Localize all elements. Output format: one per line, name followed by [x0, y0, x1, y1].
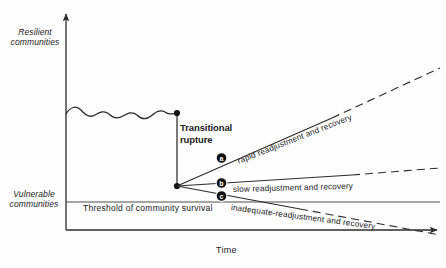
pre-rupture-endpoint-dot: [174, 110, 180, 116]
trajectory-a-dashed: [332, 68, 440, 118]
y-axis-top-label: Resilient communities: [6, 28, 64, 48]
x-axis-label: Time: [216, 245, 237, 255]
resilience-trajectory-diagram: a b c Resilient communities Vulnerable c…: [0, 0, 446, 268]
marker-a-letter: a: [216, 153, 227, 164]
y-axis-top-label-line2: communities: [6, 38, 64, 48]
marker-b-letter: b: [216, 178, 227, 189]
transitional-rupture-line2: rupture: [180, 134, 242, 146]
transitional-rupture-label: Transitional rupture: [180, 122, 242, 146]
y-axis-bottom-label: Vulnerable communities: [4, 190, 64, 210]
pre-rupture-wavy-line: [66, 107, 177, 118]
marker-c-letter: c: [216, 191, 227, 202]
y-axis-bottom-label-line2: communities: [4, 200, 64, 210]
transitional-rupture-line1: Transitional: [180, 122, 242, 134]
trajectory-b-dashed: [352, 168, 440, 175]
threshold-label: Threshold of community survival: [83, 204, 213, 214]
